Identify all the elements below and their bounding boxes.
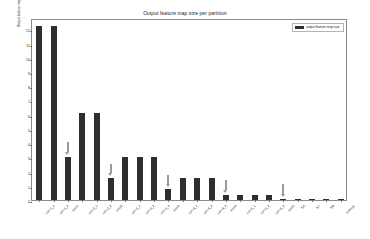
x-axis-tick-label: softmax — [345, 204, 355, 214]
x-axis-tick-mark — [111, 200, 112, 202]
bar — [51, 26, 57, 200]
y-axis-tick-mark — [30, 174, 32, 175]
y-axis-tick-mark — [30, 145, 32, 146]
bar — [108, 178, 114, 200]
y-axis-tick-mark — [30, 46, 32, 47]
y-axis-tick-mark — [30, 188, 32, 189]
y-axis-tick-mark — [30, 31, 32, 32]
x-axis-tick-label: conv5_3 — [274, 204, 285, 215]
x-axis-tick-label: conv3_3 — [159, 204, 170, 215]
annotation-down-arrow-icon — [166, 175, 171, 188]
x-axis-tick-mark — [125, 200, 126, 202]
y-axis-label: Output feature map size(MB) — [17, 0, 21, 66]
x-axis-tick-mark — [54, 200, 55, 202]
annotation-down-arrow-icon — [281, 184, 286, 197]
x-axis-tick-mark — [240, 200, 241, 202]
chart-legend: output feature map size — [292, 23, 344, 32]
x-axis-tick-label: fc6 — [300, 204, 306, 210]
chart-title: Output feature map size per partition — [0, 11, 370, 16]
x-axis-tick-label: conv3_1 — [130, 204, 141, 215]
x-axis-tick-label: conv2_1 — [87, 204, 98, 215]
bar — [36, 26, 42, 200]
annotation-down-arrow-icon — [108, 164, 113, 177]
x-axis-tick-mark — [212, 200, 213, 202]
x-axis-tick-mark — [68, 200, 69, 202]
x-axis-tick-mark — [82, 200, 83, 202]
y-axis-tick-mark — [30, 74, 32, 75]
y-axis-tick-mark — [30, 88, 32, 89]
x-axis-tick-mark — [39, 200, 40, 202]
x-axis-tick-label: pool2 — [115, 204, 123, 212]
bar — [65, 157, 71, 201]
bar — [94, 113, 100, 200]
bar — [165, 189, 171, 200]
x-axis-tick-mark — [197, 200, 198, 202]
y-axis-tick-mark — [30, 117, 32, 118]
x-axis-tick-label: fc7 — [315, 204, 321, 210]
x-axis-tick-label: conv1_2 — [58, 204, 69, 215]
annotation-down-arrow-icon — [223, 180, 228, 193]
x-axis-tick-mark — [168, 200, 169, 202]
bar — [151, 157, 157, 201]
x-axis-tick-label: conv5_2 — [260, 204, 271, 215]
plot-area — [32, 20, 346, 200]
x-axis-tick-label: pool5 — [287, 204, 295, 212]
legend-label: output feature map size — [306, 25, 339, 29]
x-axis-tick-label: pool1 — [72, 204, 80, 212]
annotation-down-arrow-icon — [65, 142, 70, 155]
plot-frame: Output feature map size(MB) output featu… — [31, 19, 347, 201]
x-axis-tick-mark — [97, 200, 98, 202]
x-axis-tick-mark — [312, 200, 313, 202]
x-axis-tick-mark — [154, 200, 155, 202]
bar — [194, 178, 200, 200]
x-axis-tick-mark — [269, 200, 270, 202]
x-axis-tick-mark — [183, 200, 184, 202]
y-axis-tick-mark — [30, 102, 32, 103]
x-axis-tick-label: conv4_1 — [188, 204, 199, 215]
x-axis-tick-label: fc8 — [329, 204, 335, 210]
bar — [137, 157, 143, 201]
x-axis-tick-mark — [255, 200, 256, 202]
x-axis-tick-label: conv5_1 — [245, 204, 256, 215]
x-axis-tick-mark — [283, 200, 284, 202]
y-axis-tick-mark — [30, 60, 32, 61]
x-axis-tick-mark — [226, 200, 227, 202]
bar — [180, 178, 186, 200]
bar — [122, 157, 128, 201]
x-axis-tick-label: conv4_2 — [202, 204, 213, 215]
chart-figure: Output feature map size per partition Ou… — [0, 0, 370, 239]
x-axis-tick-label: conv1_1 — [44, 204, 55, 215]
x-axis-tick-mark — [341, 200, 342, 202]
bar — [209, 178, 215, 200]
x-axis-tick-label: conv3_2 — [145, 204, 156, 215]
x-axis-tick-mark — [298, 200, 299, 202]
x-axis-tick-label: pool3 — [172, 204, 180, 212]
x-axis-tick-label: conv4_3 — [216, 204, 227, 215]
x-axis-tick-label: conv2_2 — [102, 204, 113, 215]
bar — [79, 113, 85, 200]
x-axis-tick-label: pool4 — [230, 204, 238, 212]
legend-swatch-icon — [295, 26, 304, 29]
y-axis-tick-mark — [30, 131, 32, 132]
x-axis-tick-mark — [140, 200, 141, 202]
y-axis-tick-mark — [30, 159, 32, 160]
x-axis-tick-mark — [326, 200, 327, 202]
y-axis-tick-mark — [30, 202, 32, 203]
